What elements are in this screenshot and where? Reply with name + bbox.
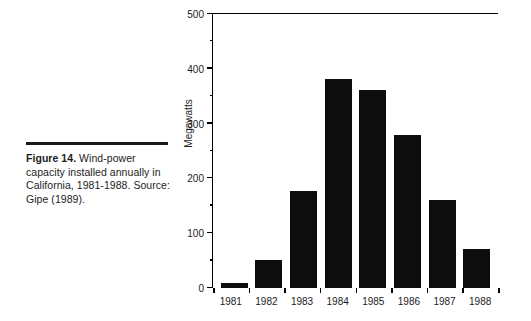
x-axis-tick [356,288,358,293]
x-axis-tick-label-1984: 1984 [327,296,349,307]
bar-chart-figure: Megawatts 0100200300400500 1981198219831… [176,0,531,321]
bar-1981 [221,283,248,288]
bar-1982 [255,260,282,288]
bar-1984 [325,79,352,288]
bar-1983 [290,191,317,288]
y-axis-tick-label: 500 [187,9,204,20]
bar-1986 [394,135,421,288]
bar-1987 [429,200,456,288]
x-axis-tick-label-1988: 1988 [469,296,491,307]
x-axis-tick-label-1986: 1986 [398,296,420,307]
y-axis-tick-label: 0 [198,283,204,294]
x-axis-tick-label-1982: 1982 [255,296,277,307]
x-axis-tick [320,288,322,293]
bar-column [425,14,460,288]
x-axis-tick-label-1985: 1985 [362,296,384,307]
y-axis-tick-label: 400 [187,63,204,74]
caption-rule-divider [26,142,168,145]
bar-column [390,14,425,288]
x-axis-tick [213,288,215,293]
x-axis-tick [391,288,393,293]
x-axis-tick [284,288,286,293]
bars-layer [213,14,498,288]
x-axis-tick [249,288,251,293]
y-axis-tick-label: 100 [187,228,204,239]
caption-text: Figure 14. Wind-power capacity installed… [26,152,174,206]
x-axis-tick [427,288,429,293]
x-axis-tick-label-1987: 1987 [433,296,455,307]
caption-figure-number: Figure 14. [26,152,76,164]
y-axis-tick-label: 200 [187,173,204,184]
bar-column [252,14,287,288]
x-axis-tick-label-1981: 1981 [220,296,242,307]
x-axis-tick [462,288,464,293]
bar-1985 [359,90,386,288]
y-axis-tick-label: 300 [187,118,204,129]
x-axis-tick-label-1983: 1983 [291,296,313,307]
bar-column [286,14,321,288]
bar-1988 [463,249,490,288]
figure-caption-block: Figure 14. Wind-power capacity installed… [26,142,174,206]
bar-column [321,14,356,288]
bar-column [459,14,494,288]
bar-column [217,14,252,288]
x-axis-tick [498,288,500,293]
plot-area: 0100200300400500 19811982198319841985198… [212,13,498,288]
bar-column [356,14,391,288]
